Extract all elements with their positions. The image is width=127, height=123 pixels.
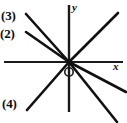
line-lower-right-steep-segment — [69, 62, 117, 122]
y-axis-label: y — [72, 2, 77, 13]
line-2-label: (2) — [0, 27, 15, 40]
line-upper-right-segment — [69, 13, 118, 62]
line-4-segment — [27, 62, 69, 110]
x-axis-label: x — [113, 61, 118, 72]
line-3-label: (3) — [1, 9, 16, 22]
line-4-label: (4) — [2, 97, 17, 110]
coordinate-figure-svg — [0, 0, 127, 123]
figure-canvas: (3) (2) (4) x y — [0, 0, 127, 123]
